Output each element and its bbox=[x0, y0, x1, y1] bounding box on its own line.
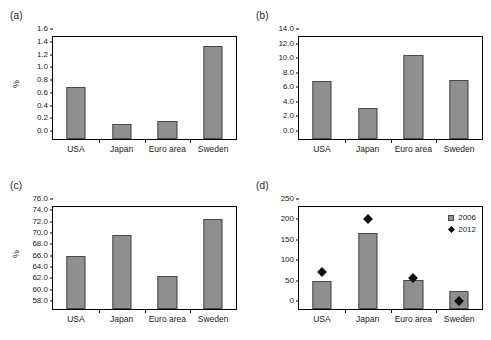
y-axis-tick-label: 66.0 bbox=[32, 252, 53, 260]
bar bbox=[358, 108, 377, 139]
plot-area-d: 050100150200250USAJapanEuro areaSweden 2… bbox=[298, 206, 483, 310]
x-axis-tick-label: USA bbox=[67, 144, 84, 154]
y-axis-tick-label: 14.0 bbox=[278, 25, 299, 33]
x-axis-tick-mark bbox=[190, 139, 191, 143]
y-axis-tick-label: 8.0 bbox=[283, 69, 299, 77]
x-axis-tick-mark bbox=[145, 309, 146, 313]
legend-diamond-icon bbox=[448, 226, 455, 233]
panel-c: (c) % 58.060.062.064.066.068.070.072.074… bbox=[0, 170, 245, 340]
x-axis-tick-mark bbox=[99, 139, 100, 143]
y-axis-tick-label: 100 bbox=[281, 256, 299, 264]
bar bbox=[158, 276, 177, 309]
y-axis-tick-label: 2.0 bbox=[283, 112, 299, 120]
y-axis-tick-label: 68.0 bbox=[32, 240, 53, 248]
plot-area-b: 0.02.04.06.08.010.012.014.0USAJapanEuro … bbox=[298, 36, 483, 140]
plot-inner-b: 0.02.04.06.08.010.012.014.0USAJapanEuro … bbox=[299, 37, 482, 139]
legend-item: 2012 bbox=[448, 224, 476, 236]
y-axis-tick-label: 58.0 bbox=[32, 297, 53, 305]
diamond-marker-icon bbox=[317, 267, 327, 277]
y-axis-tick-label: 0.0 bbox=[37, 127, 53, 135]
y-axis-tick-label: 0.8 bbox=[37, 76, 53, 84]
legend-item-label: 2012 bbox=[458, 224, 476, 236]
x-axis-tick-mark bbox=[190, 309, 191, 313]
figure-canvas: (a) % 0.00.20.40.60.81.01.21.41.6USAJapa… bbox=[0, 0, 491, 340]
bar bbox=[312, 81, 331, 139]
x-axis-tick-mark bbox=[99, 309, 100, 313]
bar bbox=[204, 219, 223, 309]
y-axis-tick-label: 60.0 bbox=[32, 286, 53, 294]
y-axis-tick-label: 1.2 bbox=[37, 51, 53, 59]
y-axis-tick-label: 50 bbox=[285, 277, 299, 285]
x-axis-tick-mark bbox=[391, 139, 392, 143]
panel-d: (d) 050100150200250USAJapanEuro areaSwed… bbox=[246, 170, 491, 340]
x-axis-tick-label: Euro area bbox=[395, 314, 432, 324]
y-axis-tick-label: 0 bbox=[290, 297, 299, 305]
x-axis-tick-label: Sweden bbox=[444, 144, 475, 154]
y-axis-tick-label: 64.0 bbox=[32, 263, 53, 271]
x-axis-tick-label: Sweden bbox=[444, 314, 475, 324]
x-axis-tick-mark bbox=[345, 309, 346, 313]
x-axis-tick-label: USA bbox=[67, 314, 84, 324]
legend-item: 2006 bbox=[448, 212, 476, 224]
x-axis-tick-label: USA bbox=[313, 144, 330, 154]
bar bbox=[312, 281, 331, 309]
y-axis-tick-label: 0.0 bbox=[283, 127, 299, 135]
x-axis-tick-label: Sweden bbox=[198, 144, 229, 154]
bar bbox=[404, 55, 423, 139]
panel-label-d: (d) bbox=[256, 180, 269, 191]
bar bbox=[112, 124, 131, 139]
legend-2006-2012: 20062012 bbox=[448, 212, 476, 235]
bar bbox=[66, 87, 85, 139]
bar bbox=[112, 235, 131, 309]
y-axis-label-c: % bbox=[11, 250, 21, 258]
bar bbox=[66, 256, 85, 309]
y-axis-tick-label: 76.0 bbox=[32, 195, 53, 203]
y-axis-tick-label: 12.0 bbox=[278, 40, 299, 48]
plot-area-a: 0.00.20.40.60.81.01.21.41.6USAJapanEuro … bbox=[52, 36, 237, 140]
x-axis-tick-label: USA bbox=[313, 314, 330, 324]
y-axis-tick-label: 250 bbox=[281, 195, 299, 203]
x-axis-tick-label: Euro area bbox=[395, 144, 432, 154]
x-axis-tick-mark bbox=[391, 309, 392, 313]
y-axis-label-a: % bbox=[11, 80, 21, 88]
y-axis-tick-label: 1.4 bbox=[37, 38, 53, 46]
y-axis-tick-label: 62.0 bbox=[32, 274, 53, 282]
panel-label-b: (b) bbox=[256, 10, 269, 21]
y-axis-tick-label: 70.0 bbox=[32, 229, 53, 237]
panel-b: (b) 0.02.04.06.08.010.012.014.0USAJapanE… bbox=[246, 0, 491, 170]
y-axis-tick-label: 74.0 bbox=[32, 206, 53, 214]
bar bbox=[204, 46, 223, 139]
legend-item-label: 2006 bbox=[458, 212, 476, 224]
bar bbox=[404, 280, 423, 309]
plot-inner-a: 0.00.20.40.60.81.01.21.41.6USAJapanEuro … bbox=[53, 37, 236, 139]
y-axis-tick-label: 0.6 bbox=[37, 89, 53, 97]
plot-area-c: 58.060.062.064.066.068.070.072.074.076.0… bbox=[52, 206, 237, 310]
y-axis-tick-label: 1.6 bbox=[37, 25, 53, 33]
y-axis-tick-label: 72.0 bbox=[32, 218, 53, 226]
x-axis-tick-mark bbox=[145, 139, 146, 143]
bar bbox=[450, 80, 469, 139]
y-axis-tick-label: 150 bbox=[281, 236, 299, 244]
x-axis-tick-label: Euro area bbox=[149, 314, 186, 324]
y-axis-tick-label: 1.0 bbox=[37, 63, 53, 71]
x-axis-tick-mark bbox=[436, 309, 437, 313]
y-axis-tick-label: 4.0 bbox=[283, 98, 299, 106]
y-axis-tick-label: 0.2 bbox=[37, 114, 53, 122]
panel-label-c: (c) bbox=[10, 180, 22, 191]
bar bbox=[358, 233, 377, 309]
x-axis-tick-label: Japan bbox=[356, 144, 379, 154]
y-axis-tick-label: 6.0 bbox=[283, 83, 299, 91]
y-axis-tick-label: 200 bbox=[281, 215, 299, 223]
legend-square-icon bbox=[448, 215, 454, 221]
x-axis-tick-label: Japan bbox=[110, 314, 133, 324]
x-axis-tick-label: Japan bbox=[356, 314, 379, 324]
x-axis-tick-label: Sweden bbox=[198, 314, 229, 324]
diamond-marker-icon bbox=[363, 214, 373, 224]
x-axis-tick-label: Japan bbox=[110, 144, 133, 154]
x-axis-tick-mark bbox=[345, 139, 346, 143]
y-axis-tick-label: 10.0 bbox=[278, 54, 299, 62]
panel-a: (a) % 0.00.20.40.60.81.01.21.41.6USAJapa… bbox=[0, 0, 245, 170]
plot-inner-c: 58.060.062.064.066.068.070.072.074.076.0… bbox=[53, 207, 236, 309]
x-axis-tick-label: Euro area bbox=[149, 144, 186, 154]
panel-label-a: (a) bbox=[10, 10, 23, 21]
